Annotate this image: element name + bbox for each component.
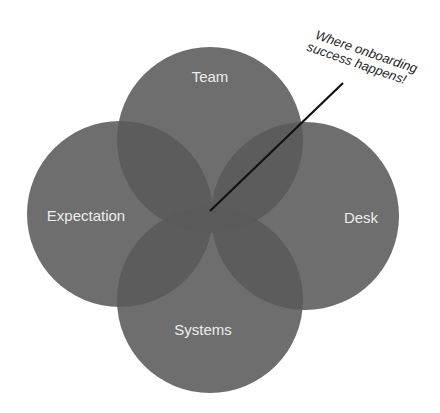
label-systems: Systems (174, 321, 232, 338)
venn-diagram: Team Expectation Desk Systems Where onbo… (0, 0, 440, 413)
label-expectation: Expectation (47, 207, 125, 224)
label-team: Team (192, 68, 229, 85)
label-desk: Desk (344, 209, 378, 226)
circle-systems (117, 207, 303, 393)
